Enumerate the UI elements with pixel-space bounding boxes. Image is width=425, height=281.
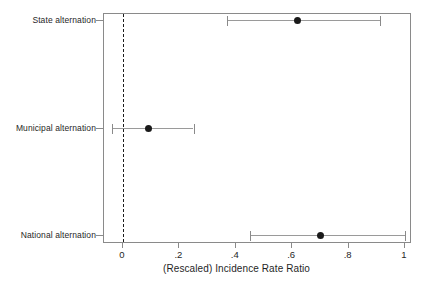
ci-cap-low-national <box>250 231 251 241</box>
y-axis-label-national-alternation: National alternation <box>21 230 96 240</box>
x-axis-tick-label-5: 1 <box>401 249 406 260</box>
x-axis-title-text: (Rescaled) Incidence Rate Ratio <box>163 263 310 274</box>
ci-cap-high-national <box>405 231 406 241</box>
x-axis-tick-label-4: .8 <box>344 249 352 260</box>
x-axis-tick-label-1: .2 <box>174 249 182 260</box>
ci-cap-low-municipal <box>112 124 113 134</box>
x-axis-tick-3 <box>291 243 292 248</box>
confidence-interval-bar-national <box>250 235 405 236</box>
coefficient-plot: State alternationMunicipal alternationNa… <box>0 0 425 281</box>
plot-area <box>103 13 411 243</box>
confidence-interval-bar-municipal <box>112 128 194 129</box>
x-axis-tick-1 <box>178 243 179 248</box>
y-axis-tick-national <box>96 235 103 236</box>
x-axis-tick-label-3: .6 <box>287 249 295 260</box>
confidence-interval-bar-state <box>227 20 379 21</box>
x-axis-tick-label-2: .4 <box>231 249 239 260</box>
y-axis-tick-state <box>96 20 103 21</box>
ci-cap-high-municipal <box>194 124 195 134</box>
y-axis-tick-municipal <box>96 128 103 129</box>
x-axis-tick-2 <box>235 243 236 248</box>
ci-cap-high-state <box>380 16 381 26</box>
y-axis-label-municipal-alternation: Municipal alternation <box>16 123 96 133</box>
x-axis-tick-label-0: 0 <box>119 249 124 260</box>
x-axis-tick-4 <box>348 243 349 248</box>
x-axis-tick-5 <box>404 243 405 248</box>
point-marker-national-alternation <box>317 232 324 239</box>
point-marker-municipal-alternation <box>145 125 152 132</box>
point-marker-state-alternation <box>294 17 301 24</box>
x-axis-title: (Rescaled) Incidence Rate Ratio <box>0 263 425 274</box>
x-axis-tick-0 <box>122 243 123 248</box>
y-axis-label-state-alternation: State alternation <box>32 15 96 25</box>
ci-cap-low-state <box>227 16 228 26</box>
